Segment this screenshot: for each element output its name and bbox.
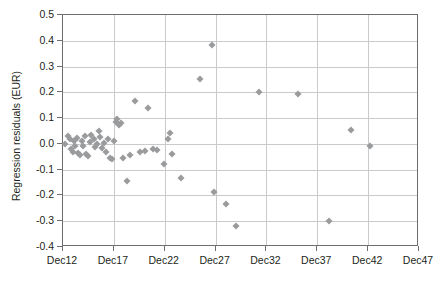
- y-axis-tick-mark: [57, 194, 62, 195]
- gridline-vertical: [266, 15, 267, 245]
- data-point: [119, 155, 126, 162]
- data-point: [142, 148, 149, 155]
- gridline-vertical: [114, 15, 115, 245]
- gridline-horizontal: [63, 41, 417, 42]
- gridline-horizontal: [63, 170, 417, 171]
- y-axis-tick-mark: [57, 66, 62, 67]
- x-axis-tick-mark: [316, 246, 317, 251]
- gridline-horizontal: [63, 67, 417, 68]
- y-axis-tick-label: 0.1: [39, 112, 54, 123]
- gridline-horizontal: [63, 221, 417, 222]
- x-axis-tick-label: Dec22: [149, 255, 179, 266]
- gridline-horizontal: [63, 195, 417, 196]
- y-axis-tick-label: 0.4: [39, 35, 54, 46]
- y-axis-tick-label: 0.2: [39, 86, 54, 97]
- x-axis-tick-label: Dec17: [98, 255, 128, 266]
- y-axis-tick-label: 0.0: [39, 138, 54, 149]
- x-axis-tick-label: Dec42: [352, 255, 382, 266]
- x-axis-tick-mark: [367, 246, 368, 251]
- gridline-vertical: [317, 15, 318, 245]
- gridline-vertical: [165, 15, 166, 245]
- y-axis-tick-mark: [57, 14, 62, 15]
- y-axis-tick-mark: [57, 220, 62, 221]
- x-axis-tick-mark: [215, 246, 216, 251]
- x-axis-tick-label: Dec37: [301, 255, 331, 266]
- data-point: [222, 201, 229, 208]
- y-axis-tick-label: -0.4: [36, 241, 54, 252]
- x-axis-tick-label: Dec27: [199, 255, 229, 266]
- data-point: [197, 76, 204, 83]
- x-axis-tick-label: Dec47: [403, 255, 433, 266]
- data-point: [208, 41, 215, 48]
- y-axis-tick-mark: [57, 143, 62, 144]
- x-axis-tick-mark: [62, 246, 63, 251]
- y-axis-tick-label: 0.5: [39, 9, 54, 20]
- data-point: [145, 104, 152, 111]
- data-point: [256, 89, 263, 96]
- gridline-vertical: [368, 15, 369, 245]
- y-axis-tick-mark: [57, 91, 62, 92]
- data-point: [168, 150, 175, 157]
- data-point: [347, 126, 354, 133]
- data-point: [232, 223, 239, 230]
- data-point: [160, 160, 167, 167]
- gridline-horizontal: [63, 144, 417, 145]
- y-axis-tick-label: -0.2: [36, 189, 54, 200]
- data-point: [61, 140, 68, 147]
- y-axis-tick-mark: [57, 169, 62, 170]
- data-point: [132, 98, 139, 105]
- y-axis-tick-mark: [57, 117, 62, 118]
- x-axis-tick-mark: [113, 246, 114, 251]
- data-point: [127, 151, 134, 158]
- y-axis-tick-mark: [57, 40, 62, 41]
- gridline-horizontal: [63, 92, 417, 93]
- y-axis-tick-label: 0.3: [39, 60, 54, 71]
- plot-area: [62, 14, 418, 246]
- data-point: [326, 218, 333, 225]
- data-point: [85, 153, 92, 160]
- x-axis-tick-label: Dec12: [47, 255, 77, 266]
- data-point: [177, 175, 184, 182]
- gridline-vertical: [216, 15, 217, 245]
- data-point: [294, 90, 301, 97]
- x-axis-tick-mark: [265, 246, 266, 251]
- data-point: [124, 178, 131, 185]
- y-axis-tick-label: -0.1: [36, 163, 54, 174]
- x-axis-tick-mark: [418, 246, 419, 251]
- scatter-chart: Regression residuals (EUR) -0.4-0.3-0.2-…: [0, 0, 440, 281]
- y-axis-tick-labels: -0.4-0.3-0.2-0.10.00.10.20.30.40.5: [0, 0, 62, 281]
- x-axis-tick-label: Dec32: [250, 255, 280, 266]
- x-axis-tick-mark: [164, 246, 165, 251]
- y-axis-tick-label: -0.3: [36, 215, 54, 226]
